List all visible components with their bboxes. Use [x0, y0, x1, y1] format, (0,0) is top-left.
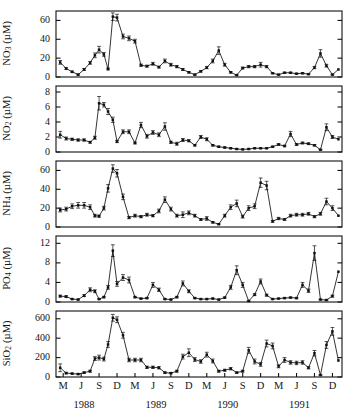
- y-tick-label: 12: [10, 237, 50, 248]
- y-axis-title: SiO2 (µM): [1, 314, 14, 372]
- y-tick-label: 4: [10, 116, 50, 127]
- y-tick-label: 6: [10, 101, 50, 112]
- y-tick-label: 0: [10, 371, 50, 382]
- y-axis-title: NO2 (µM): [1, 89, 14, 147]
- nutrient-time-series-figure: 0204060NO3 (µM)02468NO2 (µM)0204060NH4 (…: [0, 0, 355, 416]
- y-tick-label: 20: [10, 52, 50, 63]
- y-tick-label: 8: [10, 86, 50, 97]
- y-tick-label: 2: [10, 131, 50, 142]
- series-line: [60, 169, 338, 225]
- y-tick-label: 600: [10, 312, 50, 323]
- y-tick-label: 60: [10, 14, 50, 25]
- y-tick-label: 0: [10, 221, 50, 232]
- y-tick-label: 400: [10, 332, 50, 343]
- y-tick-label: 60: [10, 164, 50, 175]
- y-tick-label: 8: [10, 256, 50, 267]
- series-line: [60, 318, 338, 375]
- y-axis-title: NO3 (µM): [1, 14, 14, 72]
- x-axis-year-label: 1989: [131, 399, 181, 410]
- y-tick-label: 0: [10, 146, 50, 157]
- y-axis-title: NH4 (µM): [1, 164, 14, 222]
- y-tick-label: 0: [10, 71, 50, 82]
- x-tick-label-month: D: [320, 380, 344, 391]
- y-axis-title: PO4 (µM): [1, 239, 14, 297]
- x-axis-year-label: 1988: [59, 399, 109, 410]
- x-axis-year-label: 1990: [203, 399, 253, 410]
- y-tick-label: 4: [10, 276, 50, 287]
- series-line: [60, 17, 338, 75]
- series-line: [60, 251, 338, 301]
- x-axis-year-label: 1991: [275, 399, 325, 410]
- y-tick-label: 40: [10, 33, 50, 44]
- y-tick-label: 0: [10, 296, 50, 307]
- y-tick-label: 200: [10, 351, 50, 362]
- y-tick-label: 20: [10, 202, 50, 213]
- series-line: [60, 103, 338, 150]
- y-tick-label: 40: [10, 183, 50, 194]
